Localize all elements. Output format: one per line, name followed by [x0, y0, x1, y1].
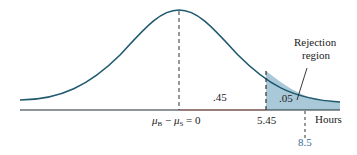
rejection-label-line1: Rejection: [294, 36, 337, 48]
axis-unit-label: Hours: [315, 113, 342, 125]
center-area-label: .45: [213, 91, 227, 103]
tail-area-label: .05: [279, 92, 293, 104]
normal-curve-diagram: .45 .05 Rejection region μB − μS = 0 5.4…: [0, 0, 357, 155]
critical-value-label: 5.45: [257, 114, 277, 126]
rejection-region-shade: [266, 71, 340, 110]
rejection-label-line2: region: [302, 49, 331, 61]
bell-curve: [20, 10, 340, 102]
observed-value-label: 8.5: [298, 136, 312, 148]
mean-label: μB − μS = 0: [151, 114, 201, 128]
